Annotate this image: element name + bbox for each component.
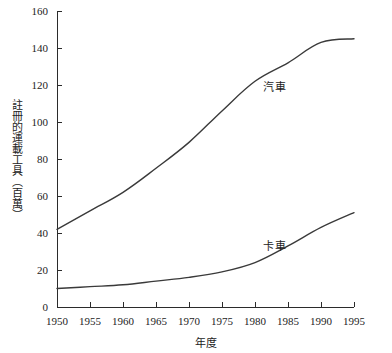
y-tick-label: 40	[37, 227, 49, 239]
x-tick-label: 1950	[46, 315, 69, 327]
x-tick-label: 1985	[277, 315, 300, 327]
x-tick-label: 1960	[112, 315, 135, 327]
plot-axes	[57, 11, 354, 307]
series-annotations: 汽車卡車	[263, 80, 286, 252]
y-tick-label: 60	[37, 190, 49, 202]
chart-container: 020406080100120140160 195019551960196519…	[0, 0, 392, 353]
y-tick-label: 20	[37, 264, 49, 276]
y-axis-title: 註冊的運載工具（百萬）	[11, 99, 24, 220]
x-tick-label: 1965	[145, 315, 168, 327]
series-lines	[57, 39, 354, 289]
x-axis-ticks: 1950195519601965197019751980198519901995	[46, 302, 366, 327]
line-chart: 020406080100120140160 195019551960196519…	[0, 0, 392, 353]
y-tick-label: 0	[43, 301, 49, 313]
y-tick-label: 140	[32, 42, 49, 54]
y-tick-label: 80	[37, 153, 49, 165]
axis-frame	[57, 11, 354, 307]
series-label: 卡車	[263, 239, 286, 252]
x-tick-label: 1995	[343, 315, 366, 327]
x-axis-title: 年度	[195, 336, 217, 349]
y-tick-label: 120	[32, 79, 49, 91]
y-tick-label: 100	[32, 116, 49, 128]
x-tick-label: 1990	[310, 315, 333, 327]
x-tick-label: 1980	[244, 315, 267, 327]
y-tick-label: 160	[32, 5, 49, 17]
x-tick-label: 1955	[79, 315, 102, 327]
series-line	[57, 39, 354, 230]
x-tick-label: 1975	[211, 315, 234, 327]
x-tick-label: 1970	[178, 315, 201, 327]
series-label: 汽車	[263, 80, 286, 93]
series-line	[57, 213, 354, 289]
